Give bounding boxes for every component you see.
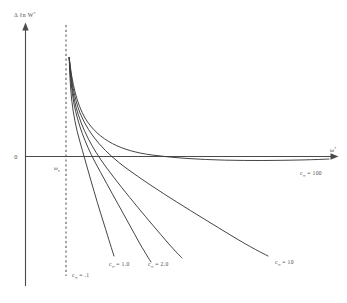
curve-label-value: = 10 [282,259,294,265]
curve-label-sub: ∞ [151,264,154,269]
curve-label-value: = 2.0 [155,261,168,267]
y-axis [22,23,28,287]
curve-label-c-100: c∞= 100 [300,170,322,178]
svg-text:c∞= 100: c∞= 100 [300,170,322,178]
x-axis-label-sup: * [334,146,336,151]
svg-text:c∞= 10: c∞= 10 [275,259,294,267]
x-axis [26,153,339,159]
curve-c-2.0 [69,58,182,259]
svg-text:ω*: ω* [330,146,337,153]
svg-text:c∞= 1.0: c∞= 1.0 [109,261,130,269]
curve-label-value: = .1 [79,272,89,278]
figure-canvas: Δ ℓn W* ω* 0 ωc c∞= .1 c∞= 1.0 c∞= 2.0 [0,0,347,303]
curve-label-sub: ∞ [303,173,306,178]
svg-text:c∞= .1: c∞= .1 [72,272,89,280]
curve-c-100 [69,58,329,161]
curve-label-sub: ∞ [278,262,281,267]
y-zero-tick-label: 0 [14,153,17,160]
x-axis-label: ω* [330,146,337,153]
y-axis-label-sup: * [33,11,35,16]
svg-text:0: 0 [14,153,17,160]
curve-label-value: = 1.0 [116,261,129,267]
curve-label-c-0.1: c∞= .1 [72,272,89,280]
curve-label-sub: ∞ [75,275,78,280]
asymptote-label-sub: c [58,168,60,173]
y-axis-label: Δ ℓn W* [14,11,36,18]
y-axis-label-text: Δ ℓn W [14,12,34,18]
curve-label-c-1.0: c∞= 1.0 [109,261,130,269]
asymptote-label: ωc [54,165,60,173]
curve-label-value: = 100 [307,170,322,176]
curve-label-c-10: c∞= 10 [275,259,294,267]
svg-text:Δ ℓn W*: Δ ℓn W* [14,11,36,18]
svg-text:ωc: ωc [54,165,60,173]
curve-c-1.0 [69,58,151,263]
curve-label-sub: ∞ [112,264,115,269]
